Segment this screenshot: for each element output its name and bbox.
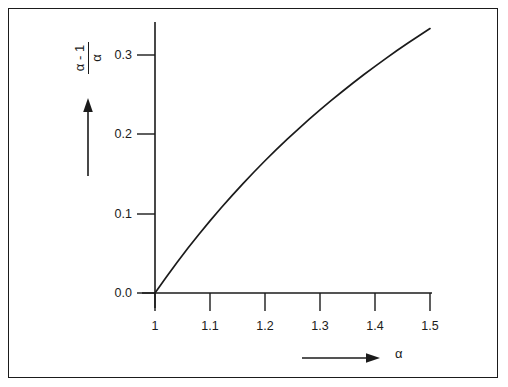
y-tick-label: 0.2 — [100, 128, 132, 141]
y-axis-label-fraction: α - 1 α — [73, 42, 103, 74]
y-tick-label: 0.0 — [100, 287, 132, 300]
x-tick-label: 1.5 — [410, 320, 450, 333]
y-tick-label: 0.1 — [100, 208, 132, 221]
x-tick-marks — [155, 293, 430, 311]
figure-container: 0.3 0.2 0.1 0.0 1 1.1 1.2 1.3 1.4 1.5 α … — [0, 0, 508, 387]
x-tick-label: 1.3 — [300, 320, 340, 333]
x-axis-arrow-icon — [302, 353, 380, 363]
x-tick-label: 1.4 — [355, 320, 395, 333]
x-tick-label: 1.1 — [190, 320, 230, 333]
y-axis-label-numerator: α - 1 — [73, 42, 88, 74]
x-axis-label: α — [395, 347, 403, 360]
y-axis-arrow-icon — [83, 98, 93, 176]
data-series-curve — [155, 29, 430, 293]
y-axis-label: α - 1 α — [52, 26, 124, 90]
x-tick-label: 1.2 — [245, 320, 285, 333]
y-axis-label-denominator: α — [89, 51, 104, 65]
y-tick-marks — [137, 55, 155, 293]
x-tick-label: 1 — [135, 320, 175, 333]
